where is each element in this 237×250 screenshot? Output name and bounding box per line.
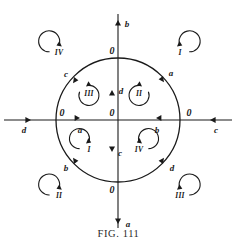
origin-zero-label: 0 [110,108,115,118]
outer-corner-label-top-left: IV [55,49,63,57]
circle-zero-left: 0 [60,108,65,118]
arc-label-lower-left: b [64,164,69,173]
bottom-axis-arrow-down-icon [115,218,121,224]
inner-down-arrow-up-icon [109,147,115,152]
diagram-canvas [0,0,237,250]
arc-arrow-upper-left-icon [73,77,78,83]
outer-corner-label-bottom-right: III [175,192,184,200]
outer-corner-label-bottom-left: II [56,192,62,200]
axis-lines [4,14,232,228]
outer-corner-label-top-right: I [178,49,181,57]
right-axis-arrow-left-icon [210,117,216,123]
inner-quadrant-label-upper-right: II [136,90,142,98]
arc-label-upper-left: c [64,70,68,79]
left-axis-arrow-right-icon [25,117,31,123]
inner-quadrant-label-upper-left: III [84,90,93,98]
figure-caption: FIG. 111 [0,228,237,239]
axis-endpoint-label-right: c [214,126,218,135]
figure-container: b a d c d c a b 0 0 0 0 0 a c b d III II… [0,0,237,250]
inner-axis-label-up: d [119,87,124,96]
inner-axis-label-down: c [118,149,122,158]
arc-label-upper-right: a [169,69,174,78]
circle-zero-right: 0 [187,108,192,118]
arc-label-lower-right: d [170,164,175,173]
inner-quadrant-label-lower-right: IV [135,146,143,154]
circle-zero-bottom: 0 [110,185,115,195]
circle-zero-top: 0 [110,46,115,56]
inner-up-arrow-down-icon [109,90,115,95]
inner-axis-label-right: b [155,126,160,135]
inner-quadrant-label-lower-left: I [87,146,90,154]
inner-axis-label-left: a [78,126,83,135]
axis-endpoint-label-top: b [125,20,130,29]
axis-endpoint-label-left: d [22,126,27,135]
top-axis-arrow-up-icon [115,20,121,26]
